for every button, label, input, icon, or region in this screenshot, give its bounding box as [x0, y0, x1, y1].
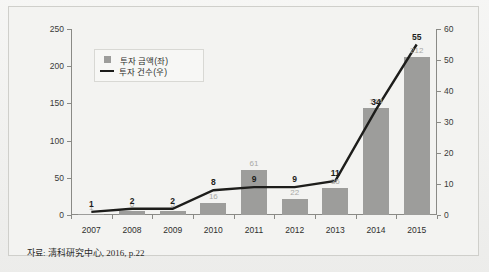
line-value-label: 2 [130, 197, 135, 206]
chart-frame: 050100150200250 0102030405060 1651661223… [8, 6, 479, 256]
x-tick [437, 215, 438, 219]
x-tick [193, 215, 194, 219]
x-axis-label: 2010 [204, 225, 223, 235]
legend-square-swatch-icon [104, 56, 111, 63]
line-value-label: 8 [211, 178, 216, 187]
x-axis-label: 2011 [245, 225, 263, 235]
x-axis-label: 2007 [82, 225, 101, 235]
left-tick-label: 150 [50, 99, 64, 108]
line-value-label: 34 [371, 98, 380, 107]
right-tick-label: 30 [444, 118, 453, 127]
bar-value-label: 61 [250, 160, 259, 168]
x-tick [274, 215, 275, 219]
right-tick [437, 60, 441, 61]
line-value-label: 9 [292, 175, 297, 184]
right-tick-label: 40 [444, 87, 453, 96]
right-tick [437, 153, 441, 154]
line-value-label: 2 [170, 197, 175, 206]
x-tick [112, 215, 113, 219]
bar-value-label: 36 [331, 178, 340, 186]
bar-value-label: 212 [410, 47, 423, 55]
legend-item-count: 투자 건수(우) [101, 65, 197, 76]
bar-value-label: 16 [209, 193, 218, 201]
x-tick [396, 215, 397, 219]
right-tick-label: 0 [444, 211, 449, 220]
right-tick [437, 29, 441, 30]
line-value-label: 11 [331, 169, 340, 178]
x-axis-label: 2014 [367, 225, 386, 235]
x-tick [71, 215, 72, 219]
line-value-label: 1 [89, 200, 94, 209]
left-tick-label: 100 [50, 136, 64, 145]
page-background: 050100150200250 0102030405060 1651661223… [0, 0, 489, 272]
left-tick-label: 200 [50, 62, 64, 71]
right-tick-label: 50 [444, 56, 453, 65]
x-tick [234, 215, 235, 219]
x-axis-label: 2008 [123, 225, 142, 235]
left-tick-label: 250 [50, 25, 64, 34]
x-tick [356, 215, 357, 219]
legend-line-swatch-icon [100, 70, 114, 72]
x-tick [152, 215, 153, 219]
x-axis-label: 2009 [163, 225, 182, 235]
line-value-label: 9 [252, 175, 257, 184]
legend-item-amount: 투자 금액(좌) [101, 54, 197, 65]
x-axis-label: 2012 [285, 225, 304, 235]
right-tick-label: 20 [444, 149, 453, 158]
right-tick [437, 184, 441, 185]
right-tick [437, 91, 441, 92]
chart-legend: 투자 금액(좌) 투자 건수(우) [94, 49, 204, 82]
right-tick [437, 122, 441, 123]
line-value-label: 55 [412, 33, 421, 42]
bar-value-label: 22 [290, 189, 299, 197]
left-tick-label: 0 [59, 211, 64, 220]
left-tick-label: 50 [55, 174, 64, 183]
x-tick [315, 215, 316, 219]
x-axis-label: 2013 [326, 225, 345, 235]
right-tick-label: 10 [444, 180, 453, 189]
x-axis-label: 2015 [407, 225, 426, 235]
source-footnote: 자료: 淸科硏究中心, 2016, p.22 [27, 246, 145, 259]
right-tick-label: 60 [444, 25, 453, 34]
legend-label-count: 투자 건수(우) [119, 65, 167, 77]
